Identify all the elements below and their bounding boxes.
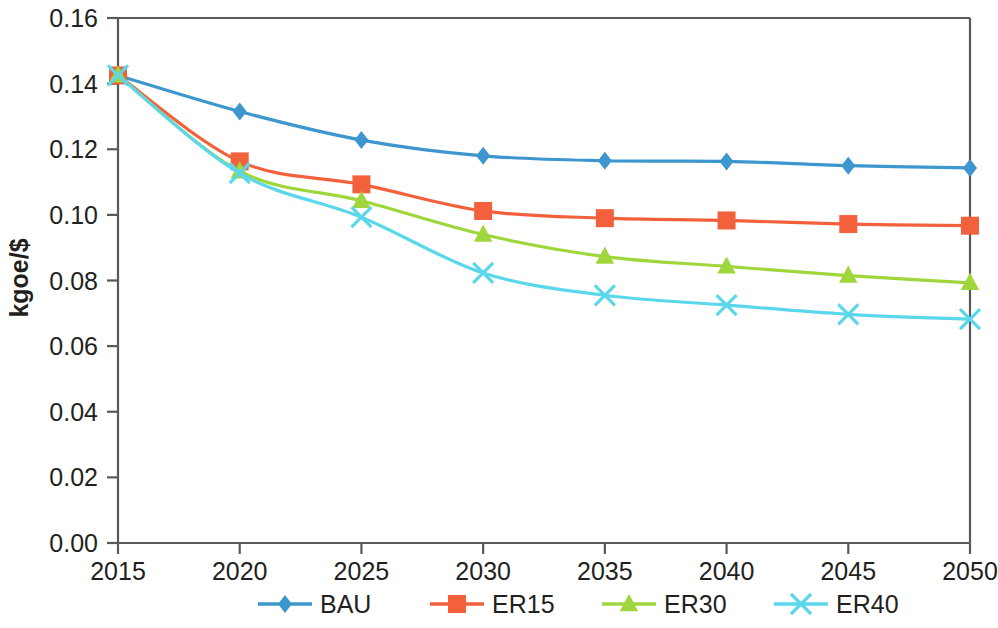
data-point-marker [963,159,977,177]
legend-label: BAU [320,590,371,618]
x-tick-label: 2045 [820,557,876,585]
legend-marker [448,595,466,613]
data-point-marker [351,207,371,227]
data-point-marker [352,175,370,193]
data-point-marker [718,211,736,229]
legend-label: ER15 [492,590,555,618]
data-point-marker [841,157,855,175]
data-point-marker [473,263,493,283]
legend-item-er15[interactable]: ER15 [430,590,555,618]
y-axis-title-text: kgoe/$ [5,238,33,317]
y-tick-label: 0.08 [49,267,98,295]
y-tick-label: 0.10 [49,201,98,229]
series-er15 [109,66,979,234]
chart-legend: BAUER15ER30ER40 [258,590,899,618]
legend-item-er30[interactable]: ER30 [602,590,727,618]
data-point-marker [233,103,247,121]
data-point-marker [839,215,857,233]
data-point-marker [598,152,612,170]
x-tick-label: 2030 [455,557,511,585]
legend-item-er40[interactable]: ER40 [774,590,899,618]
data-point-marker [354,131,368,149]
y-tick-label: 0.02 [49,463,98,491]
chart-container: 0.000.020.040.060.080.100.120.140.16 201… [0,0,998,628]
legend-marker [278,595,292,613]
y-tick-label: 0.06 [49,332,98,360]
legend-label: ER40 [836,590,899,618]
legend-label: ER30 [664,590,727,618]
series-line [118,75,970,225]
series-layer [108,65,980,329]
x-tick-label: 2035 [577,557,633,585]
x-tick-label: 2025 [334,557,390,585]
y-axis-ticks: 0.000.020.040.060.080.100.120.140.16 [49,4,118,557]
line-chart: 0.000.020.040.060.080.100.120.140.16 201… [0,0,998,628]
data-point-marker [720,152,734,170]
y-tick-label: 0.00 [49,529,98,557]
series-er30 [109,65,979,290]
legend-item-bau[interactable]: BAU [258,590,371,618]
y-tick-label: 0.16 [49,4,98,32]
data-point-marker [596,209,614,227]
data-point-marker [474,202,492,220]
data-point-marker [476,147,490,165]
y-tick-label: 0.14 [49,70,98,98]
data-point-marker [961,217,979,235]
x-axis-ticks: 20152020202520302035204020452050 [90,543,998,585]
x-tick-label: 2020 [212,557,268,585]
x-tick-label: 2050 [942,557,998,585]
y-tick-label: 0.04 [49,398,98,426]
x-tick-label: 2015 [90,557,146,585]
y-axis-title: kgoe/$ [5,238,33,317]
x-tick-label: 2040 [699,557,755,585]
y-tick-label: 0.12 [49,135,98,163]
